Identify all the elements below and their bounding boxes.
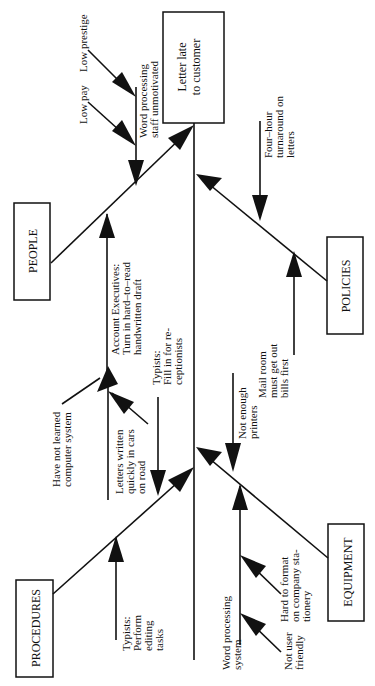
arrowhead-icon [196,174,222,191]
category-label-equipment: EQUIPMENT [341,537,355,607]
cause-four-hour-line3: letters [284,131,296,158]
category-policies: POLICIES Four–hour turnaround on letters… [196,95,363,398]
category-equipment: EQUIPMENT Not enough printers Word proce… [196,373,364,670]
cause-account-execs-line3: handwritten draft [131,279,143,355]
arrowhead-icon [112,72,136,97]
sub-cause-hard-format-line3: tionery [300,590,312,622]
arrowhead-icon [128,160,144,186]
sub-cause-low-prestige: Low prestige [77,14,89,72]
category-label-people: PEOPLE [26,229,40,273]
arrowhead-icon [99,213,115,238]
cause-letters-written-line3: on road [135,460,147,494]
arrowhead-icon [252,195,268,221]
arrowhead-icon [286,251,302,277]
arrowhead-icon [196,447,222,466]
cause-not-learned-line2: computer system [61,412,73,487]
fishbone-diagram: Letter late to customer PEOPLE Word proc… [0,0,375,686]
cause-printers-line2: printers [247,405,259,439]
effect-line-1: Letter late [175,43,189,92]
arrowhead-icon [150,470,166,496]
category-label-procedures: PROCEDURES [29,589,43,667]
cause-typists-edit-line4: tasks [153,629,165,651]
effect-box: Letter late to customer [163,12,224,123]
cause-mail-room-line3: bills first [278,359,290,398]
effect-line-2: to customer [189,39,203,95]
cause-wp-system-line2: system [231,639,243,670]
arrowhead-icon [108,536,124,562]
cause-typists-fill-line3: ceptionists [172,338,184,385]
sub-cause-low-pay: Low pay [77,85,89,124]
bone-equipment [204,454,328,558]
sub-cause-not-friendly-line2: friendly [293,635,305,670]
arrowhead-icon [108,391,134,414]
category-procedures: PROCEDURES Have not learned computer sys… [16,328,194,677]
arrowhead-icon [112,120,136,146]
sub-bone-not-learned [62,378,100,404]
bone-people [51,133,186,263]
cause-unmotivated-line2: staff unmotivated [148,60,160,138]
category-label-policies: POLICIES [339,260,353,313]
arrowhead-icon [225,443,241,472]
